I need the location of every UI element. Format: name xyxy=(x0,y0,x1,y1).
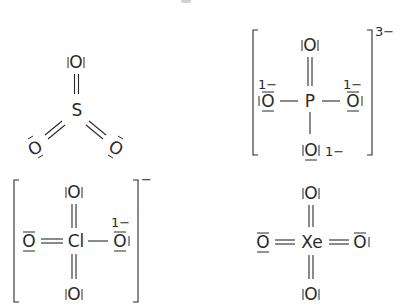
double-bond xyxy=(45,121,62,135)
structure-xeo4: Xe O O O O xyxy=(256,183,369,304)
atom-o-right: O xyxy=(346,91,359,111)
atom-o-right: O xyxy=(113,231,126,251)
double-bond xyxy=(48,125,65,139)
atom-o-left: O xyxy=(24,136,46,160)
formal-charge: 1− xyxy=(325,144,344,159)
atom-o-right: O xyxy=(105,136,127,160)
atom-o-top: O xyxy=(67,182,80,202)
atom-p: P xyxy=(305,91,315,111)
atom-o-top: O xyxy=(304,183,317,203)
atom-o-bottom: O xyxy=(67,284,80,304)
atom-o-left: O xyxy=(261,91,274,111)
atom-o-bottom: O xyxy=(304,140,317,160)
structure-po4: 3− P O 1− O 1− O O 1− xyxy=(253,24,394,160)
bracket-right xyxy=(367,30,372,155)
overall-charge: 3− xyxy=(375,24,394,39)
atom-o-left: O xyxy=(256,232,269,252)
atom-xe: Xe xyxy=(301,232,322,252)
structure-so3: S O O O xyxy=(24,52,127,160)
formal-charge: 1− xyxy=(258,77,277,92)
atom-o-top: O xyxy=(303,35,316,55)
atom-o-left: O xyxy=(22,231,35,251)
lewis-structures-diagram: S O O O 3− P O 1− O xyxy=(0,0,404,307)
atom-o-top: O xyxy=(69,52,82,72)
double-bond xyxy=(86,125,103,139)
formal-charge: 1− xyxy=(343,77,362,92)
atom-o-bottom: O xyxy=(304,284,317,304)
cropped-glyph xyxy=(181,0,191,3)
atom-o-right: O xyxy=(353,232,366,252)
structure-clo4: − Cl O O 1− O O xyxy=(14,172,152,304)
bracket-right xyxy=(133,180,138,302)
bracket-left xyxy=(14,180,19,302)
formal-charge: 1− xyxy=(111,215,130,230)
atom-cl: Cl xyxy=(68,231,85,251)
double-bond xyxy=(89,121,106,135)
bracket-left xyxy=(253,30,258,155)
overall-charge: − xyxy=(141,172,152,187)
atom-s: S xyxy=(72,100,83,120)
